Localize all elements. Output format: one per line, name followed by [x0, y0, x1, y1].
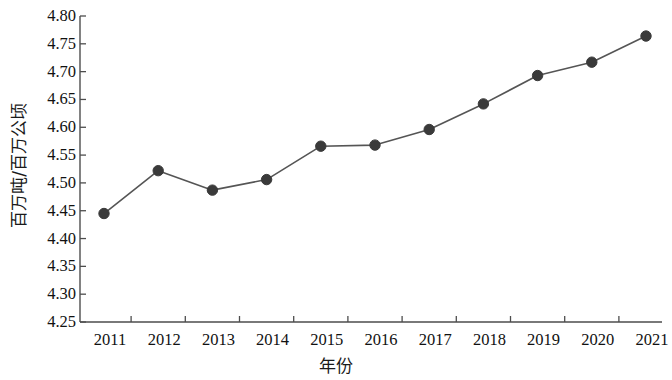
data-point-marker	[641, 31, 651, 41]
data-point-marker	[316, 141, 326, 151]
data-point-markers	[99, 31, 651, 219]
x-axis-title-text: 年份	[319, 356, 353, 376]
x-axis-title: 年份	[0, 352, 672, 377]
data-point-marker	[99, 208, 109, 218]
data-point-marker	[478, 99, 488, 109]
line-chart: 百万吨/百万公顷 4.804.754.704.654.604.554.504.4…	[0, 0, 672, 380]
data-series-line	[104, 36, 646, 213]
data-point-marker	[424, 124, 434, 134]
data-point-marker	[153, 165, 163, 175]
data-point-marker	[370, 140, 380, 150]
data-point-marker	[261, 174, 271, 184]
x-axis-ticks	[131, 316, 619, 322]
data-point-marker	[532, 70, 542, 80]
plot-area	[0, 0, 672, 380]
data-point-marker	[587, 57, 597, 67]
axis-lines	[80, 16, 662, 322]
y-axis-ticks	[80, 16, 86, 322]
data-point-marker	[207, 185, 217, 195]
